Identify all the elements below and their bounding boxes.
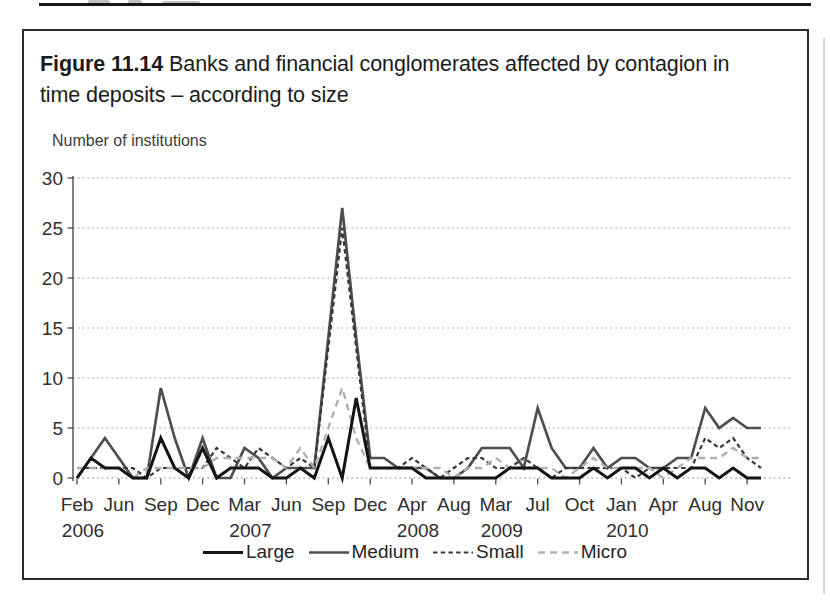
legend-item-large: Large — [202, 541, 295, 563]
x-tick-label: Dec — [353, 494, 387, 515]
y-tick-label: 20 — [42, 268, 63, 289]
x-tick-label: Aug — [437, 494, 471, 515]
x-tick-label: Mar — [479, 494, 512, 515]
x-tick-label: Apr — [397, 494, 427, 515]
legend-label-micro: Micro — [581, 541, 627, 563]
x-tick-label: Jan — [606, 494, 637, 515]
y-tick-label: 5 — [52, 418, 63, 439]
series-line-large — [77, 398, 761, 478]
x-tick-label: Dec — [186, 494, 220, 515]
legend-line-sample-small — [432, 548, 474, 557]
line-chart: 051015202530FebJunSepDecMarJunSepDecAprA… — [0, 0, 830, 606]
x-tick-label: Sep — [144, 494, 178, 515]
x-tick-label: Jul — [526, 494, 550, 515]
y-tick-label: 10 — [42, 368, 63, 389]
scanned-book-page: Figure 11.14Banks and financial conglome… — [0, 0, 830, 606]
x-tick-label: Mar — [228, 494, 261, 515]
legend-item-micro: Micro — [537, 541, 627, 563]
x-year-label: 2006 — [62, 520, 104, 541]
x-tick-label: Apr — [649, 494, 679, 515]
chart-legend: LargeMediumSmallMicro — [24, 541, 805, 563]
legend-line-sample-large — [202, 548, 244, 557]
legend-line-sample-medium — [308, 548, 350, 557]
x-tick-label: Aug — [688, 494, 722, 515]
legend-label-small: Small — [476, 541, 524, 563]
x-tick-label: Nov — [730, 494, 764, 515]
x-tick-label: Sep — [311, 494, 345, 515]
legend-label-large: Large — [246, 541, 295, 563]
y-tick-label: 30 — [42, 168, 63, 189]
x-year-label: 2008 — [397, 520, 439, 541]
y-tick-label: 15 — [42, 318, 63, 339]
legend-line-sample-micro — [537, 548, 579, 557]
series-line-micro — [77, 388, 761, 478]
x-tick-label: Oct — [565, 494, 595, 515]
x-year-label: 2009 — [481, 520, 523, 541]
series-line-medium — [77, 208, 761, 478]
y-tick-label: 0 — [52, 468, 63, 489]
x-tick-label: Feb — [61, 494, 94, 515]
series-line-small — [77, 228, 761, 478]
x-year-label: 2010 — [606, 520, 648, 541]
x-tick-label: Jun — [104, 494, 135, 515]
legend-item-medium: Medium — [308, 541, 420, 563]
legend-item-small: Small — [432, 541, 524, 563]
x-year-label: 2007 — [229, 520, 271, 541]
x-tick-label: Jun — [271, 494, 302, 515]
y-tick-label: 25 — [42, 218, 63, 239]
legend-label-medium: Medium — [352, 541, 420, 563]
